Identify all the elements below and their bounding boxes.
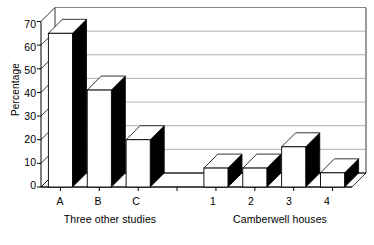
x-tick-label-4: 4 bbox=[317, 196, 337, 207]
x-tick-label-a: A bbox=[50, 196, 70, 207]
x-tick-label-c: C bbox=[126, 196, 146, 207]
plot-area bbox=[0, 0, 374, 245]
x-tick-label-1: 1 bbox=[203, 196, 223, 207]
group-label-camberwell-houses: Camberwell houses bbox=[205, 213, 355, 225]
x-tick-label-b: B bbox=[88, 196, 108, 207]
bar-chart: Percentage 70 60 50 40 30 20 10 0 A B C … bbox=[0, 0, 374, 245]
x-tick-label-2: 2 bbox=[241, 196, 261, 207]
x-tick-label-3: 3 bbox=[279, 196, 299, 207]
group-label-three-other-studies: Three other studies bbox=[35, 213, 185, 225]
